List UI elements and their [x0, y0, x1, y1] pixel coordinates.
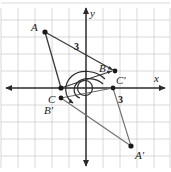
length-label-upper: 3: [74, 41, 79, 52]
geometry-figure: A B C C′ B′ A′ 3 3 x y: [0, 0, 171, 172]
label-B: B: [99, 62, 106, 74]
label-C-prime: C′: [116, 74, 126, 86]
label-A-prime: A′: [134, 149, 145, 161]
y-axis-label: y: [89, 7, 95, 19]
point-A: [42, 29, 47, 34]
point-C: [58, 85, 63, 90]
x-axis-label: x: [153, 72, 159, 84]
point-B: [113, 69, 118, 74]
length-label-lower: 3: [118, 94, 123, 105]
label-A: A: [30, 21, 38, 33]
point-A-prime: [128, 143, 133, 148]
figure-canvas: A B C C′ B′ A′ 3 3 x y: [0, 0, 171, 172]
label-B-prime: B′: [44, 104, 54, 116]
point-C-prime: [111, 86, 116, 91]
point-B-prime: [59, 96, 64, 101]
